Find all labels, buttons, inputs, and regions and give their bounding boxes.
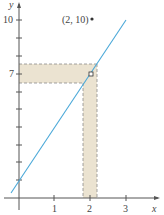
y-tick-label-10: 10 [3,14,13,25]
x-axis-arrow-icon [154,196,160,200]
x-axis-label: x [151,203,157,214]
chart: y 10 7 1 2 3 x (2, 10) [0,0,164,215]
x-tick-label-3: 3 [123,203,128,214]
x-tick-label-2: 2 [87,203,92,214]
open-point [89,72,93,76]
y-axis-arrow-icon [17,2,21,8]
y-tick-label-7: 7 [9,68,14,79]
data-line [11,20,126,193]
y-axis-label: y [8,0,14,10]
axes [4,4,158,210]
point-label: (2, 10) [62,14,89,26]
vertical-band [83,64,97,198]
filled-point [90,17,93,20]
x-tick-label-1: 1 [52,203,57,214]
